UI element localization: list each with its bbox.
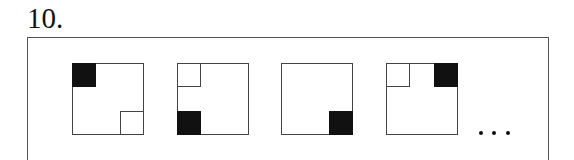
filled-square-tl bbox=[72, 63, 96, 87]
problem-number: 10. bbox=[27, 1, 63, 35]
empty-square-tl bbox=[386, 63, 410, 87]
ellipsis-dot bbox=[479, 131, 483, 135]
ellipsis-dot bbox=[492, 131, 496, 135]
panel-2 bbox=[177, 63, 249, 135]
panel-4 bbox=[386, 63, 458, 135]
panel-1 bbox=[72, 63, 144, 135]
filled-square-br bbox=[329, 111, 353, 135]
empty-square-tl bbox=[177, 63, 201, 87]
ellipsis-dot bbox=[506, 131, 510, 135]
empty-square-br bbox=[120, 111, 144, 135]
panel-3 bbox=[281, 63, 353, 135]
filled-square-bl bbox=[177, 111, 201, 135]
filled-square-tr bbox=[434, 63, 458, 87]
